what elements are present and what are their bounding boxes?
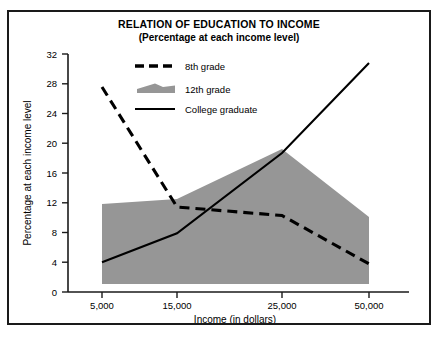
x-tick-label-5000: 5,000	[90, 300, 114, 311]
x-axis-ticks	[102, 292, 369, 298]
y-tick-label-4: 4	[52, 257, 57, 268]
y-tick-label-0: 0	[52, 287, 57, 298]
y-axis-title: Percentage at each income level	[22, 100, 33, 245]
y-axis-ticks	[62, 54, 68, 292]
y-tick-label-12: 12	[46, 197, 57, 208]
figure-container: RELATION OF EDUCATION TO INCOME (Percent…	[0, 0, 441, 345]
y-tick-label-8: 8	[52, 227, 57, 238]
legend-label-college-graduate: College graduate	[185, 104, 257, 115]
y-tick-label-20: 20	[46, 138, 57, 149]
legend-item-college-graduate: College graduate	[135, 104, 257, 115]
x-tick-label-50000: 50,000	[354, 300, 383, 311]
series-area-12th-grade	[102, 149, 369, 284]
legend-item-12th-grade: 12th grade	[137, 84, 230, 95]
area-swatch-icon	[137, 84, 175, 94]
chart-legend: 8th grade 12th grade College graduate	[135, 61, 257, 115]
y-tick-label-28: 28	[46, 78, 57, 89]
legend-label-12th-grade: 12th grade	[185, 84, 230, 95]
chart-frame: RELATION OF EDUCATION TO INCOME (Percent…	[7, 10, 431, 325]
x-tick-label-25000: 25,000	[267, 300, 296, 311]
y-tick-label-16: 16	[46, 168, 57, 179]
y-tick-label-32: 32	[46, 49, 57, 60]
x-tick-label-15000: 15,000	[162, 300, 191, 311]
x-axis-title: Income (in dollars)	[194, 314, 276, 323]
y-tick-label-24: 24	[46, 108, 57, 119]
chart-plot: 32 28 24 20 16 12 8 4 0 Percentage at ea…	[9, 12, 429, 323]
legend-label-8th-grade: 8th grade	[185, 61, 225, 72]
legend-item-8th-grade: 8th grade	[135, 61, 225, 72]
